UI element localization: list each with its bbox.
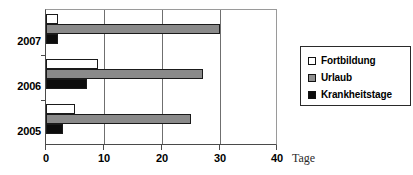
bar-group-2005	[46, 100, 276, 145]
x-axis-tick-labels: 0 10 20 30 40	[0, 152, 300, 168]
legend: Fortbildung Urlaub Krankheitstage	[300, 46, 411, 106]
bar-2006-urlaub	[46, 69, 203, 79]
x-axis-tick-0	[45, 145, 46, 150]
legend-swatch-urlaub-icon	[308, 74, 316, 82]
x-axis-label-0: 0	[31, 152, 61, 165]
bar-2007-fortbildung	[46, 14, 58, 24]
x-axis-tick-20	[161, 145, 162, 150]
y-axis-label-2007: 2007	[0, 35, 41, 47]
bar-2007-urlaub	[46, 24, 220, 34]
legend-label-krankheitstage: Krankheitstage	[321, 89, 392, 100]
legend-label-urlaub: Urlaub	[321, 72, 352, 83]
legend-item-krankheitstage: Krankheitstage	[308, 86, 410, 103]
legend-swatch-krankheitstage-icon	[308, 91, 316, 99]
legend-label-fortbildung: Fortbildung	[321, 55, 375, 66]
y-axis-label-2005: 2005	[0, 125, 41, 137]
bar-2005-fortbildung	[46, 104, 75, 114]
x-axis-label-10: 10	[89, 152, 119, 165]
x-axis-label-30: 30	[205, 152, 235, 165]
x-axis-tick-10	[103, 145, 104, 150]
bar-2006-krankheitstage	[46, 79, 87, 89]
bar-group-2007	[46, 10, 276, 55]
y-axis-category-labels: 2007 2006 2005	[0, 9, 41, 145]
x-axis-tick-30	[219, 145, 220, 150]
bar-group-2006	[46, 55, 276, 100]
bar-2007-krankheitstage	[46, 34, 58, 44]
x-axis-label-40: 40	[262, 152, 292, 165]
legend-swatch-fortbildung-icon	[308, 57, 316, 65]
y-axis-label-2006: 2006	[0, 80, 41, 92]
x-axis-label-20: 20	[147, 152, 177, 165]
x-axis-tick-40	[276, 145, 277, 150]
x-axis-title: Tage	[292, 151, 315, 165]
bar-2005-krankheitstage	[46, 124, 63, 134]
legend-item-fortbildung: Fortbildung	[308, 52, 410, 69]
plot-area	[45, 9, 277, 145]
legend-item-urlaub: Urlaub	[308, 69, 410, 86]
bar-chart: 2007 2006 2005	[0, 0, 413, 175]
x-axis-ticks	[45, 145, 277, 151]
bar-2006-fortbildung	[46, 59, 98, 69]
bar-2005-urlaub	[46, 114, 191, 124]
